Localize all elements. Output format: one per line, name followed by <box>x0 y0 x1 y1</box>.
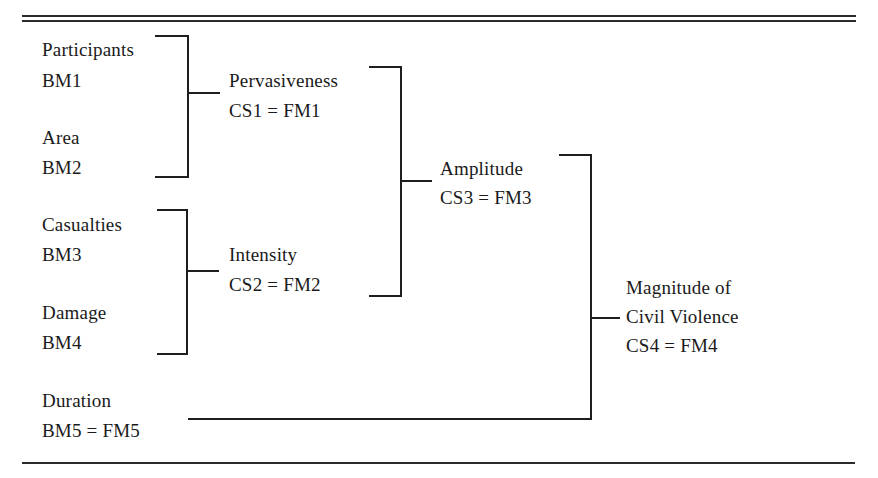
participants-label: Participants <box>42 38 134 62</box>
bm4-code: BM4 <box>42 331 82 355</box>
bracket-1-tick <box>187 92 220 94</box>
bracket-2-tick <box>186 270 219 272</box>
bracket-1-stem <box>187 35 189 178</box>
intensity-label: Intensity <box>229 243 297 267</box>
duration-connector <box>188 418 592 420</box>
area-label: Area <box>42 126 80 150</box>
bracket-4-top <box>559 154 592 156</box>
damage-label: Damage <box>42 301 107 325</box>
bracket-2-top <box>157 209 188 211</box>
bm1-code: BM1 <box>42 69 82 93</box>
bm5-code: BM5 = FM5 <box>42 419 140 443</box>
bracket-3-tick <box>400 180 432 182</box>
cs2-code: CS2 = FM2 <box>229 273 321 297</box>
bm3-code: BM3 <box>42 243 82 267</box>
bracket-3-top <box>369 66 402 68</box>
top-rule-2 <box>22 20 856 22</box>
magnitude-label-line1: Magnitude of <box>626 276 731 300</box>
bracket-1-top <box>155 35 189 37</box>
bracket-1-bottom <box>155 176 189 178</box>
magnitude-label-line2: Civil Violence <box>626 305 739 329</box>
bracket-3-bottom <box>369 295 402 297</box>
bracket-4-tick <box>590 317 620 319</box>
bottom-rule <box>22 462 855 464</box>
cs4-code: CS4 = FM4 <box>626 334 718 358</box>
duration-label: Duration <box>42 389 111 413</box>
cs3-code: CS3 = FM3 <box>440 186 532 210</box>
bracket-4-stem <box>590 154 592 420</box>
top-rule-1 <box>22 15 856 17</box>
cs1-code: CS1 = FM1 <box>229 99 321 123</box>
casualties-label: Casualties <box>42 213 122 237</box>
amplitude-label: Amplitude <box>440 157 523 181</box>
bracket-2-bottom <box>157 353 188 355</box>
pervasiveness-label: Pervasiveness <box>229 69 338 93</box>
bm2-code: BM2 <box>42 156 82 180</box>
bracket-2-stem <box>186 209 188 355</box>
